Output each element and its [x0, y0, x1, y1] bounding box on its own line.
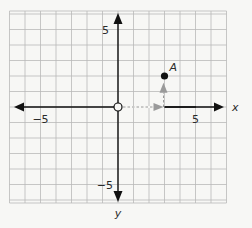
point-a-label: A [169, 61, 178, 74]
x-axis-left-arrow-icon [14, 103, 24, 112]
y-axis-up-arrow-icon [114, 13, 123, 24]
point-a [161, 72, 168, 79]
x-tick-label-neg5: −5 [32, 113, 48, 126]
y-axis-label: y [114, 207, 122, 220]
y-tick-label-5: 5 [102, 24, 109, 37]
path-arrow-right-icon [154, 103, 164, 111]
coordinate-plane-svg: −5 5 5 −5 x y A [0, 0, 252, 228]
x-tick-label-5: 5 [192, 113, 199, 126]
points [161, 72, 168, 79]
axes [14, 13, 224, 202]
origin-marker [114, 103, 122, 111]
path-arrow-up-icon [160, 83, 168, 93]
y-tick-label-neg5: −5 [97, 179, 113, 192]
x-axis-right-arrow-icon [214, 103, 224, 112]
coordinate-plane: −5 5 5 −5 x y A [0, 0, 252, 228]
x-axis-label: x [231, 101, 239, 114]
